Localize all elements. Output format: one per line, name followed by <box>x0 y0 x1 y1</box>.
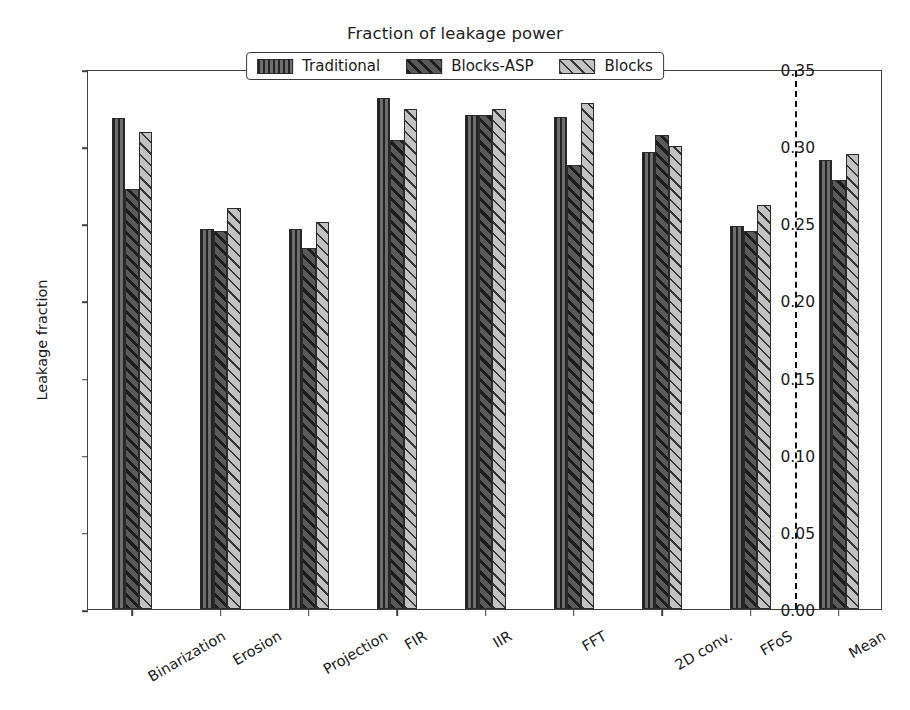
legend-swatch-blocks-asp <box>406 59 442 74</box>
bar-projection-blocks-asp <box>302 248 316 609</box>
chart-legend: Traditional Blocks-ASP Blocks <box>246 52 664 80</box>
bar-fft-traditional <box>554 117 568 609</box>
x-tick-mark <box>131 609 133 616</box>
legend-swatch-blocks <box>560 59 596 74</box>
x-tick-mark <box>220 609 222 616</box>
x-tick-label: FFoS <box>757 628 795 659</box>
bar-iir-traditional <box>465 115 479 609</box>
mean-separator-line <box>795 71 797 609</box>
legend-label-blocks-asp: Blocks-ASP <box>451 57 533 75</box>
x-tick-label: Projection <box>320 628 390 678</box>
bar-fir-blocks-asp <box>390 140 404 609</box>
legend-item-blocks-asp[interactable]: Blocks-ASP <box>406 57 533 75</box>
bar-mean-blocks <box>846 154 860 609</box>
x-tick-mark <box>661 609 663 616</box>
bar-erosion-blocks-asp <box>214 231 228 609</box>
legend-label-traditional: Traditional <box>302 57 380 75</box>
bar-erosion-blocks <box>227 208 241 609</box>
bar-2d-conv-traditional <box>642 152 656 609</box>
y-axis-label: Leakage fraction <box>34 279 50 400</box>
bar-iir-blocks <box>492 109 506 609</box>
x-tick-label: 2D conv. <box>672 628 735 673</box>
bar-projection-blocks <box>316 222 330 609</box>
bar-fir-traditional <box>377 98 391 609</box>
bar-binarization-traditional <box>112 118 126 609</box>
bar-erosion-traditional <box>200 229 214 609</box>
x-tick-mark <box>573 609 575 616</box>
x-tick-mark <box>485 609 487 616</box>
x-tick-mark <box>750 609 752 616</box>
bar-ffos-blocks <box>757 205 771 609</box>
bar-2d-conv-blocks <box>669 146 683 609</box>
x-tick-label: FFT <box>579 628 609 655</box>
bar-2d-conv-blocks-asp <box>655 135 669 609</box>
x-tick-label: FIR <box>402 628 430 653</box>
bar-fft-blocks <box>581 103 595 609</box>
x-tick-mark <box>396 609 398 616</box>
chart-title: Fraction of leakage power <box>0 24 910 43</box>
legend-label-blocks: Blocks <box>605 57 653 75</box>
bar-projection-traditional <box>289 229 303 609</box>
legend-swatch-traditional <box>257 59 293 74</box>
bar-mean-traditional <box>819 160 833 609</box>
bar-fir-blocks <box>404 109 418 609</box>
figure: Fraction of leakage power Traditional Bl… <box>0 0 910 710</box>
x-tick-mark <box>838 609 840 616</box>
legend-item-traditional[interactable]: Traditional <box>257 57 380 75</box>
legend-item-blocks[interactable]: Blocks <box>560 57 653 75</box>
plot-inner <box>88 71 881 609</box>
bar-fft-blocks-asp <box>567 165 581 609</box>
x-tick-mark <box>308 609 310 616</box>
bar-mean-blocks-asp <box>832 180 846 609</box>
bar-ffos-traditional <box>730 226 744 609</box>
bar-iir-blocks-asp <box>479 115 493 609</box>
x-tick-label: IIR <box>490 628 514 651</box>
x-tick-label: Erosion <box>229 628 283 669</box>
plot-area: Leakage fraction 0.000.050.100.150.200.2… <box>87 70 882 610</box>
x-tick-label: Mean <box>846 628 888 662</box>
bar-binarization-blocks <box>139 132 153 609</box>
x-tick-label: Binarization <box>146 628 229 685</box>
bar-ffos-blocks-asp <box>744 231 758 609</box>
y-tick-mark <box>82 610 88 612</box>
bar-binarization-blocks-asp <box>125 189 139 609</box>
